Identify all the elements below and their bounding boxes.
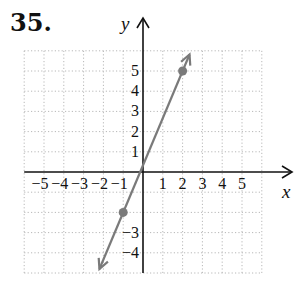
x-tick-label: −5 xyxy=(31,175,48,192)
y-tick-label: 1 xyxy=(131,143,139,160)
y-axis-label: y xyxy=(119,13,130,34)
coordinate-plane: −5−4−3−2−11234554321−3−4 x y xyxy=(0,0,307,281)
x-tick-label: −4 xyxy=(51,175,68,192)
data-point xyxy=(178,67,187,76)
x-axis-label: x xyxy=(281,181,291,202)
y-tick-label: −4 xyxy=(122,244,139,261)
y-tick-label: 5 xyxy=(131,62,139,79)
x-tick-label: 4 xyxy=(218,175,226,192)
x-tick-label: 1 xyxy=(159,175,167,192)
plotted-line xyxy=(99,55,191,269)
data-point xyxy=(119,208,128,217)
x-tick-label: −1 xyxy=(111,175,128,192)
y-tick-label: −3 xyxy=(122,224,139,241)
axes xyxy=(24,18,292,273)
x-tick-label: 2 xyxy=(179,175,187,192)
y-tick-label: 3 xyxy=(131,102,139,119)
x-tick-label: −2 xyxy=(91,175,108,192)
x-tick-label: 3 xyxy=(198,175,206,192)
y-tick-label: 4 xyxy=(131,82,139,99)
x-tick-label: 5 xyxy=(238,175,246,192)
x-tick-label: −3 xyxy=(71,175,88,192)
y-tick-label: 2 xyxy=(131,123,139,140)
